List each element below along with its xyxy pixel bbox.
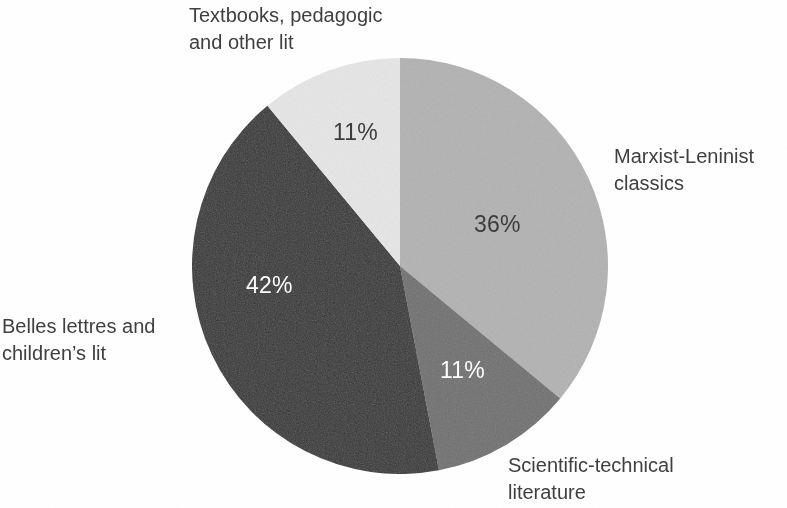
category-label-scientific: Scientific-technical literature: [508, 452, 674, 506]
slice-value-marxist: 36%: [474, 211, 521, 238]
category-label-marxist: Marxist-Leninist classics: [614, 143, 754, 197]
category-label-belles: Belles lettres and children’s lit: [2, 313, 155, 367]
slice-value-scientific: 11%: [440, 357, 485, 384]
category-label-textbooks: Textbooks, pedagogic and other lit: [189, 2, 382, 56]
pie-graphic: [192, 58, 608, 474]
pie-chart: 36% 11% 42% 11% Textbooks, pedagogic and…: [0, 0, 787, 508]
slice-value-textbooks: 11%: [333, 119, 378, 146]
pie-svg: [192, 58, 608, 474]
slice-value-belles: 42%: [246, 272, 293, 299]
